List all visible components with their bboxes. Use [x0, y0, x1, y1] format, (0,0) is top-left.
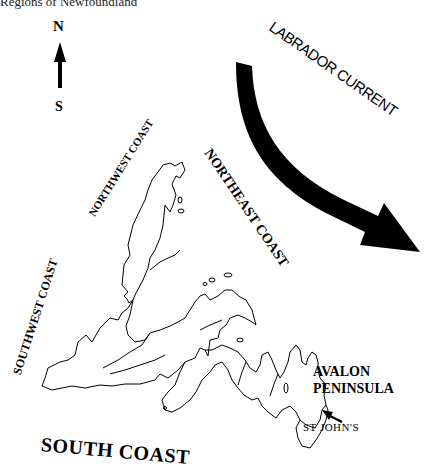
avalon-peninsula-label-line1: AVALON [313, 364, 370, 380]
st-johns-label: ST JOHN'S [303, 421, 359, 433]
island-outline [42, 162, 328, 448]
avalon-peninsula-label-line2: PENINSULA [313, 381, 394, 397]
newfoundland-map [0, 0, 424, 474]
north-arrow-icon [54, 42, 66, 88]
